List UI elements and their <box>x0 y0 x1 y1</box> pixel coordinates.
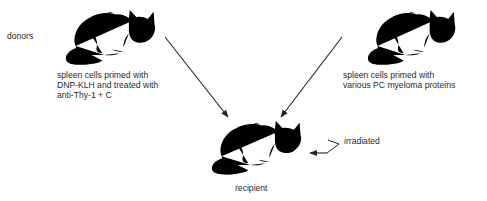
caption-line: spleen cells primed with <box>343 70 434 80</box>
caption-line: various PC myeloma proteins <box>343 80 455 90</box>
donor-mouse-right <box>368 10 458 65</box>
transfer-arrow-left <box>165 37 228 117</box>
donors-label: donors <box>7 31 33 41</box>
irradiation-arrow-icon <box>310 140 339 153</box>
recipient-label: recipient <box>235 183 267 193</box>
caption-line: spleen cells primed with <box>57 70 148 80</box>
donor-mouse-left <box>66 10 158 65</box>
recipient-mouse <box>212 121 304 175</box>
irradiated-label: irradiated <box>344 136 380 146</box>
caption-line: anti-Thy-1 + C <box>57 90 112 100</box>
transfer-arrow-right <box>281 37 342 117</box>
diagram-canvas <box>0 0 487 201</box>
caption-line: DNP-KLH and treated with <box>57 80 158 90</box>
